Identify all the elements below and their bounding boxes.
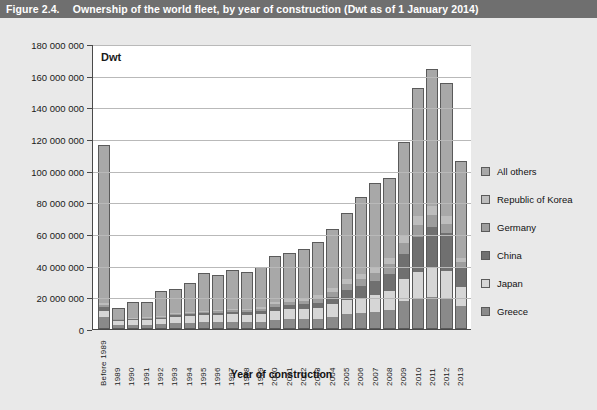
stacked-bar[interactable] bbox=[327, 230, 337, 328]
stacked-bar[interactable] bbox=[99, 146, 109, 328]
legend-item[interactable]: All others bbox=[481, 166, 593, 177]
stacked-bar[interactable] bbox=[313, 243, 323, 328]
bar-segment bbox=[427, 268, 437, 297]
bar-cell[interactable] bbox=[268, 45, 282, 328]
bar-segment bbox=[113, 309, 123, 319]
bar-segment bbox=[370, 184, 380, 267]
stacked-bar[interactable] bbox=[113, 309, 123, 328]
legend-label: Republic of Korea bbox=[497, 194, 573, 205]
chart-legend: All othersRepublic of KoreaGermanyChinaJ… bbox=[481, 166, 593, 334]
y-axis-tick-label: 160 000 000 bbox=[31, 71, 84, 82]
bar-cell[interactable] bbox=[368, 45, 382, 328]
bar-segment bbox=[227, 271, 237, 309]
stacked-bar[interactable] bbox=[242, 273, 252, 328]
bar-segment bbox=[113, 325, 123, 328]
stacked-bar[interactable] bbox=[199, 274, 209, 328]
bar-cell[interactable] bbox=[354, 45, 368, 328]
bar-segment bbox=[342, 300, 352, 315]
stacked-bar[interactable] bbox=[384, 179, 394, 328]
bar-cell[interactable] bbox=[282, 45, 296, 328]
bar-segment bbox=[242, 322, 252, 328]
legend-item[interactable]: Republic of Korea bbox=[481, 194, 593, 205]
stacked-bar[interactable] bbox=[156, 292, 166, 328]
stacked-bar[interactable] bbox=[185, 284, 195, 328]
bar-segment bbox=[99, 146, 109, 303]
bar-segment bbox=[227, 314, 237, 322]
bar-segment bbox=[384, 310, 394, 328]
bar-segment bbox=[456, 268, 466, 287]
stacked-bar[interactable] bbox=[299, 250, 309, 328]
bar-segment bbox=[456, 162, 466, 259]
bar-cell[interactable] bbox=[97, 45, 111, 328]
bar-cell[interactable] bbox=[382, 45, 396, 328]
stacked-bar[interactable] bbox=[441, 84, 451, 328]
legend-label: Greece bbox=[497, 306, 528, 317]
bar-cell[interactable] bbox=[297, 45, 311, 328]
bar-cell[interactable] bbox=[126, 45, 140, 328]
bar-segment bbox=[427, 297, 437, 328]
bar-cell[interactable] bbox=[183, 45, 197, 328]
bar-cell[interactable] bbox=[111, 45, 125, 328]
bar-segment bbox=[299, 250, 309, 297]
bar-segment bbox=[427, 70, 437, 206]
legend-item[interactable]: Japan bbox=[481, 278, 593, 289]
stacked-bar[interactable] bbox=[356, 198, 366, 328]
bar-cell[interactable] bbox=[311, 45, 325, 328]
bar-segment bbox=[399, 301, 409, 328]
bar-cell[interactable] bbox=[154, 45, 168, 328]
bar-segment bbox=[370, 273, 380, 281]
bar-segment bbox=[327, 317, 337, 328]
bar-cell[interactable] bbox=[225, 45, 239, 328]
stacked-bar[interactable] bbox=[128, 303, 138, 328]
bar-segment bbox=[384, 291, 394, 309]
stacked-bar[interactable] bbox=[227, 271, 237, 328]
legend-label: All others bbox=[497, 166, 537, 177]
bar-cell[interactable] bbox=[197, 45, 211, 328]
y-axis-tick-label: 100 000 000 bbox=[31, 166, 84, 177]
y-axis-tick-mark bbox=[87, 330, 92, 331]
bar-cell[interactable] bbox=[254, 45, 268, 328]
stacked-bar[interactable] bbox=[170, 290, 180, 328]
bar-segment bbox=[199, 274, 209, 310]
stacked-bar[interactable] bbox=[413, 89, 423, 328]
bar-segment bbox=[441, 299, 451, 328]
bar-segment bbox=[441, 271, 451, 299]
bar-segment bbox=[227, 322, 237, 328]
legend-item[interactable]: Germany bbox=[481, 222, 593, 233]
bar-cell[interactable] bbox=[397, 45, 411, 328]
legend-swatch-icon bbox=[481, 223, 490, 232]
y-axis-tick-label: 20 000 000 bbox=[36, 293, 84, 304]
bar-cell[interactable] bbox=[325, 45, 339, 328]
bar-segment bbox=[427, 215, 437, 227]
bar-cell[interactable] bbox=[211, 45, 225, 328]
legend-swatch-icon bbox=[481, 307, 490, 316]
bar-segment bbox=[213, 276, 223, 310]
bar-cell[interactable] bbox=[439, 45, 453, 328]
gridline bbox=[93, 203, 471, 204]
bar-cell[interactable] bbox=[454, 45, 468, 328]
bar-segment bbox=[456, 287, 466, 306]
y-axis-tick-label: 180 000 000 bbox=[31, 40, 84, 51]
stacked-bar[interactable] bbox=[456, 162, 466, 328]
bar-segment bbox=[413, 272, 423, 299]
bar-segment bbox=[399, 143, 409, 235]
stacked-bar[interactable] bbox=[342, 214, 352, 328]
stacked-bar[interactable] bbox=[213, 276, 223, 328]
bar-segment bbox=[213, 322, 223, 328]
bar-cell[interactable] bbox=[411, 45, 425, 328]
bar-cell[interactable] bbox=[168, 45, 182, 328]
bar-cell[interactable] bbox=[240, 45, 254, 328]
stacked-bar[interactable] bbox=[284, 254, 294, 328]
stacked-bar[interactable] bbox=[370, 184, 380, 328]
gridline bbox=[93, 172, 471, 173]
bar-cell[interactable] bbox=[140, 45, 154, 328]
stacked-bar[interactable] bbox=[142, 303, 152, 328]
bar-cell[interactable] bbox=[425, 45, 439, 328]
bar-segment bbox=[313, 308, 323, 319]
bar-segment bbox=[199, 322, 209, 328]
bar-cell[interactable] bbox=[340, 45, 354, 328]
legend-item[interactable]: China bbox=[481, 250, 593, 261]
legend-item[interactable]: Greece bbox=[481, 306, 593, 317]
legend-label: China bbox=[497, 250, 522, 261]
bar-segment bbox=[284, 319, 294, 328]
